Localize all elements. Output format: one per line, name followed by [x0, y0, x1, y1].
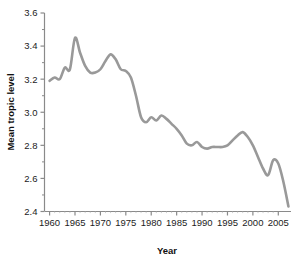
y-tick-label: 2.6: [24, 173, 37, 184]
y-axis-tick-labels: 2.42.62.83.03.23.43.6: [24, 7, 37, 217]
x-tick-label: 1995: [217, 217, 238, 228]
y-tick-label: 2.4: [24, 206, 37, 217]
y-tick-label: 3.2: [24, 74, 37, 85]
x-tick-label: 1980: [141, 217, 162, 228]
x-axis-title: Year: [157, 245, 177, 256]
x-tick-label: 1990: [191, 217, 212, 228]
data-series-line: [50, 37, 289, 206]
axes-group: [45, 13, 292, 212]
x-tick-label: 1960: [39, 217, 60, 228]
y-tick-label: 3.6: [24, 7, 37, 18]
y-tick-label: 2.8: [24, 140, 37, 151]
chart-container: 2.42.62.83.03.23.43.6 196019651970197519…: [0, 0, 301, 266]
y-tick-label: 3.4: [24, 40, 37, 51]
y-tick-label: 3.0: [24, 107, 37, 118]
x-axis-ticks: [50, 212, 279, 216]
x-axis-tick-labels: 1960196519701975198019851990199520002005: [39, 217, 289, 228]
trophic-level-line-chart: 2.42.62.83.03.23.43.6 196019651970197519…: [0, 0, 301, 266]
x-tick-label: 2005: [268, 217, 289, 228]
x-tick-label: 1965: [64, 217, 85, 228]
x-tick-label: 1975: [115, 217, 136, 228]
x-tick-label: 1970: [90, 217, 111, 228]
y-axis-title: Mean tropic level: [5, 73, 16, 150]
x-tick-label: 2000: [242, 217, 263, 228]
x-tick-label: 1985: [166, 217, 187, 228]
